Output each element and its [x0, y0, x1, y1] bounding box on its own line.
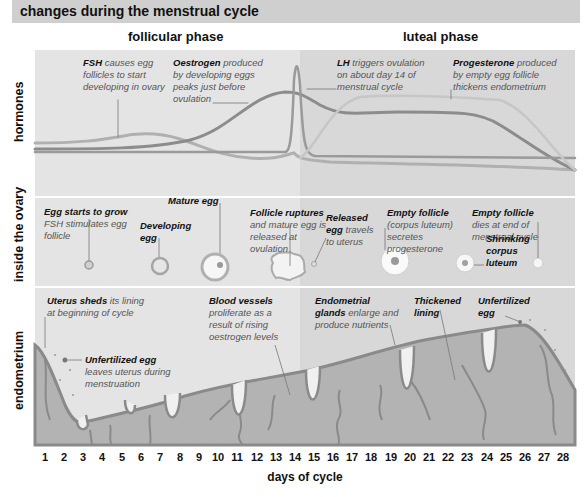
empty-follicle-secretes-annotation: Empty follicle(corpus luteum) secretes p… — [387, 207, 467, 255]
day-label: 2 — [54, 451, 74, 463]
day-label: 3 — [73, 451, 93, 463]
day-label: 21 — [419, 451, 439, 463]
uterus-sheds-annotation: Uterus sheds its lining at beginning of … — [47, 295, 147, 319]
fsh-annotation: FSH causes egg follicles to start develo… — [83, 57, 173, 93]
day-label: 26 — [515, 451, 535, 463]
day-label: 15 — [304, 451, 324, 463]
day-label: 4 — [92, 451, 112, 463]
mature-egg-annotation: Mature egg — [168, 195, 238, 207]
day-label: 11 — [227, 451, 247, 463]
thickened-lining-annotation: Thickened lining — [414, 295, 469, 319]
day-label: 9 — [189, 451, 209, 463]
follicle-ruptures-annotation: Follicle ruptures and mature egg is rele… — [250, 207, 330, 255]
day-label: 16 — [323, 451, 343, 463]
day-label: 18 — [361, 451, 381, 463]
day-label: 19 — [381, 451, 401, 463]
corpus-luteum-shrinking — [456, 254, 474, 272]
x-axis-label: days of cycle — [250, 470, 360, 484]
shrinking-corpus-luteum-annotation: Shrinking corpus luteum — [486, 233, 531, 269]
day-label: 5 — [112, 451, 132, 463]
blood-vessels-annotation: Blood vessels proliferate as a result of… — [209, 295, 279, 343]
lh-annotation: LH triggers ovulation on about day 14 of… — [337, 57, 427, 93]
day-label: 20 — [400, 451, 420, 463]
egg-starts-annotation: Egg starts to growFSH stimulates egg fol… — [44, 206, 134, 242]
endometrial-glands-annotation: Endometrial glands enlarge and produce n… — [315, 295, 400, 331]
day-label: 28 — [553, 451, 573, 463]
day-label: 8 — [170, 451, 190, 463]
day-label: 23 — [457, 451, 477, 463]
day-label: 1 — [35, 451, 55, 463]
day-label: 6 — [131, 451, 151, 463]
unfertilized-egg-end-annotation: Unfertilized egg — [478, 295, 538, 319]
day-label: 10 — [208, 451, 228, 463]
developing-egg-annotation: Developing egg — [140, 220, 185, 244]
unfertilized-egg-leaves-annotation: Unfertilized eggleaves uterus during men… — [85, 354, 175, 390]
day-label: 12 — [247, 451, 267, 463]
progesterone-annotation: Progesterone produced by empty egg folli… — [453, 57, 558, 93]
day-label: 17 — [342, 451, 362, 463]
day-label: 14 — [285, 451, 305, 463]
day-label: 25 — [496, 451, 516, 463]
day-label: 27 — [534, 451, 554, 463]
day-label: 7 — [150, 451, 170, 463]
day-label: 24 — [477, 451, 497, 463]
oestrogen-annotation: Oestrogen produced by developing eggs pe… — [173, 57, 273, 105]
released-egg-annotation: Released egg travels to uterus — [326, 212, 376, 248]
day-label: 13 — [266, 451, 286, 463]
day-label: 22 — [438, 451, 458, 463]
